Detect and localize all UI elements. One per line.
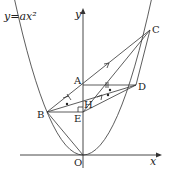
point-label-B: B — [37, 109, 44, 120]
equation-label: y=ax² — [3, 10, 37, 23]
angle-dot-icon — [107, 94, 109, 96]
point-label-C: C — [152, 24, 160, 35]
x-axis-arrow-icon — [156, 153, 162, 158]
y-axis-arrow-icon — [81, 8, 86, 14]
point-label-A: A — [73, 75, 82, 86]
angle-dot-icon — [66, 103, 68, 105]
segment-BC — [47, 30, 150, 112]
tick-mark-BA-icon — [63, 96, 69, 98]
angle-dot-icon — [109, 89, 111, 91]
diagram-canvas: y=ax² y x O A B C D E H — [0, 0, 170, 170]
point-label-H: H — [84, 99, 93, 110]
point-label-E: E — [74, 113, 81, 124]
x-axis-label: x — [150, 155, 157, 168]
arrow-mark-BC-icon — [104, 63, 109, 68]
y-axis-label: y — [74, 8, 82, 21]
point-label-D: D — [138, 81, 146, 92]
geometry-figure: y=ax² y x O A B C D E H — [0, 0, 170, 170]
right-angle-mark-icon — [78, 107, 83, 112]
origin-label: O — [74, 157, 82, 168]
